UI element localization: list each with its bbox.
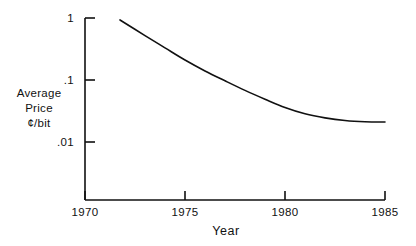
x-axis-title: Year — [166, 224, 286, 238]
chart-figure: 1 .1 .01 1970 1975 1980 1985 Average Pri… — [0, 0, 416, 246]
y-axis-title-line-1: Average — [6, 86, 72, 101]
x-tick-label-1975: 1975 — [172, 206, 199, 218]
y-tick-label-0.1: .1 — [48, 74, 74, 86]
x-tick-label-1980: 1980 — [272, 206, 299, 218]
y-tick-label-0.01: .01 — [44, 136, 74, 148]
y-tick-label-1: 1 — [48, 12, 74, 24]
y-axis-title: Average Price ¢/bit — [6, 86, 72, 131]
price-curve — [120, 20, 385, 122]
x-tick-label-1985: 1985 — [372, 206, 399, 218]
y-axis-title-line-2: Price — [6, 101, 72, 116]
x-tick-label-1970: 1970 — [72, 206, 99, 218]
y-axis-title-line-3: ¢/bit — [6, 116, 72, 131]
